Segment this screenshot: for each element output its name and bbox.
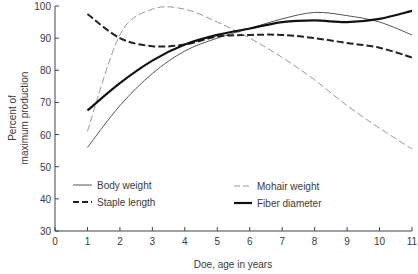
series-line-body-weight [87, 12, 412, 147]
legend-label-body-weight: Body weight [97, 180, 152, 191]
y-tick-label: 90 [40, 33, 52, 44]
y-tick-label: 40 [40, 194, 52, 205]
y-axis-label-line1: Percent of [7, 95, 18, 141]
x-tick-label: 3 [150, 236, 156, 247]
x-tick-label: 11 [407, 236, 418, 247]
x-tick-label: 2 [117, 236, 123, 247]
y-tick-label: 50 [40, 162, 52, 173]
y-tick-label: 100 [34, 1, 51, 12]
y-tick-label: 80 [40, 65, 52, 76]
series-lines [87, 7, 412, 149]
line-chart: 30405060708090100 01234567891011 Percent… [0, 0, 418, 274]
y-axis-label-line2: maximum production [19, 72, 30, 165]
y-tick-label: 70 [40, 97, 52, 108]
x-tick-label: 8 [312, 236, 318, 247]
x-tick-label: 7 [279, 236, 285, 247]
legend-label-fiber-diameter: Fiber diameter [257, 198, 322, 209]
legend-label-staple-length: Staple length [97, 197, 155, 208]
x-ticks: 01234567891011 [52, 227, 417, 247]
x-tick-label: 6 [247, 236, 253, 247]
series-line-fiber-diameter [87, 11, 412, 111]
x-tick-label: 0 [52, 236, 58, 247]
y-tick-label: 60 [40, 130, 52, 141]
legend: Body weight Staple length Mohair weight … [73, 180, 322, 209]
x-tick-label: 9 [344, 236, 350, 247]
legend-label-mohair-weight: Mohair weight [257, 181, 319, 192]
x-tick-label: 1 [85, 236, 91, 247]
x-tick-label: 10 [374, 236, 386, 247]
x-axis-label: Doe, age in years [194, 259, 272, 270]
x-tick-label: 4 [182, 236, 188, 247]
x-tick-label: 5 [214, 236, 220, 247]
y-tick-label: 30 [40, 226, 52, 237]
